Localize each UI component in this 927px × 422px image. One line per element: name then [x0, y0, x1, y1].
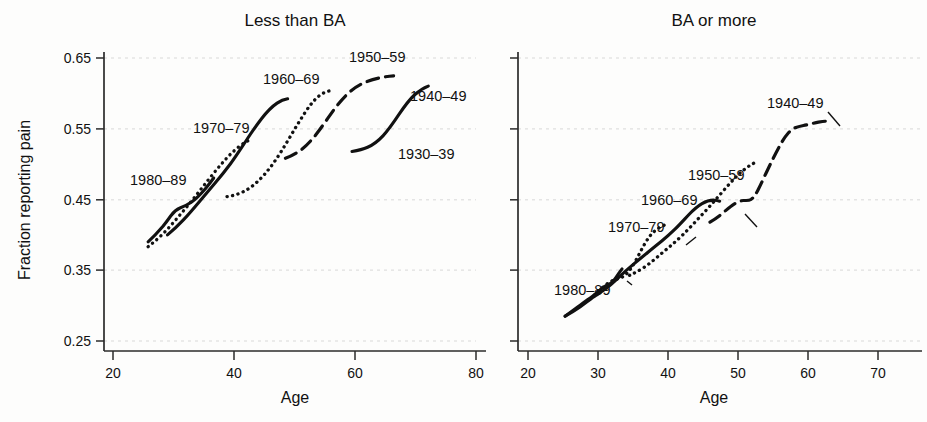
- label-right-1950-59: 1950–59: [688, 167, 744, 183]
- label-left-1950-59: 1950–59: [349, 49, 405, 65]
- label-right-1960-69: 1960–69: [641, 192, 697, 208]
- panel-title-ba-or-more: BA or more: [671, 11, 756, 30]
- left-x-axis-title: Age: [281, 389, 310, 406]
- right-x-tick-label-30: 30: [590, 365, 606, 381]
- label-left-1980-89: 1980–89: [130, 172, 186, 188]
- leader-1940-49: [828, 112, 840, 126]
- right-x-tick-label-70: 70: [870, 365, 886, 381]
- label-left-1970-79: 1970–79: [193, 120, 249, 136]
- right-y-ticks: [510, 58, 518, 341]
- right-x-tick-label-50: 50: [730, 365, 746, 381]
- label-right-1940-49: 1940–49: [767, 95, 823, 111]
- y-tick-label-035: 0.35: [64, 262, 91, 278]
- right-x-tick-label-40: 40: [660, 365, 676, 381]
- y-tick-label-065: 0.65: [64, 50, 91, 66]
- panel-ba-or-more: 20 30 40 50 60 70 1980–89 1970–79 1960–6…: [510, 11, 922, 406]
- right-x-axis-title: Age: [700, 389, 729, 406]
- leader-1980-89: [627, 281, 632, 285]
- panel-less-than-ba: 0.65 0.55 0.45 0.35 0.25 20 40 60 80: [16, 11, 486, 406]
- right-x-ticks: [528, 351, 878, 360]
- pain-by-age-figure: 0.65 0.55 0.45 0.35 0.25 20 40 60 80: [0, 0, 927, 422]
- label-left-1930-39: 1930–39: [398, 146, 454, 162]
- label-right-1980-89: 1980–89: [554, 282, 610, 298]
- y-tick-label-045: 0.45: [64, 192, 91, 208]
- right-x-tick-label-60: 60: [800, 365, 816, 381]
- left-x-tick-label-60: 60: [347, 365, 363, 381]
- left-x-tick-label-20: 20: [105, 365, 121, 381]
- y-tick-label-055: 0.55: [64, 121, 91, 137]
- y-tick-label-025: 0.25: [64, 333, 91, 349]
- left-y-ticks: [96, 58, 104, 341]
- left-x-tick-label-80: 80: [468, 365, 484, 381]
- leader-1960-69: [686, 237, 696, 245]
- right-x-tick-label-20: 20: [520, 365, 536, 381]
- label-left-1960-69: 1960–69: [263, 71, 319, 87]
- left-x-ticks: [113, 351, 476, 360]
- y-axis-title: Fraction reporting pain: [16, 120, 33, 280]
- label-left-1940-49: 1940–49: [410, 88, 466, 104]
- figure-root: 0.65 0.55 0.45 0.35 0.25 20 40 60 80: [0, 0, 927, 422]
- left-x-tick-label-40: 40: [226, 365, 242, 381]
- label-right-1970-79: 1970–79: [608, 219, 664, 235]
- panel-title-less-than-ba: Less than BA: [244, 11, 346, 30]
- curve-left-1970-79: [148, 140, 249, 246]
- leader-1950-59: [745, 214, 757, 227]
